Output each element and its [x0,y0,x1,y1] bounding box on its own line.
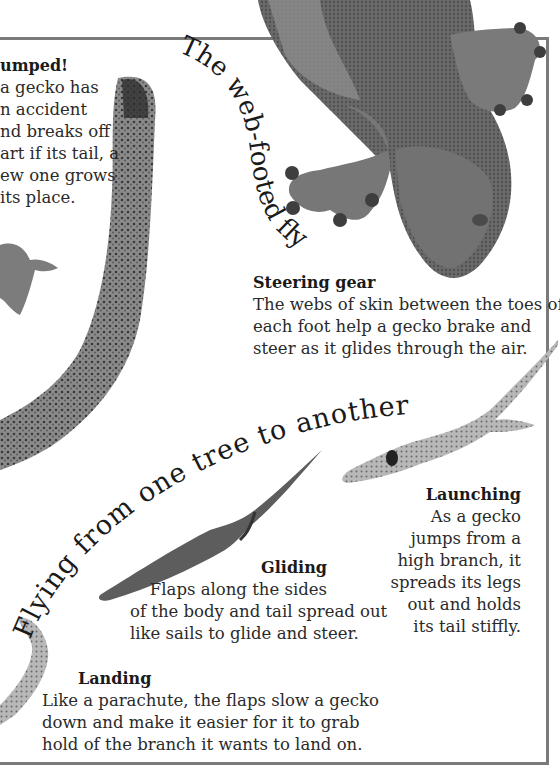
caption-line: art if its tail, a [0,143,150,165]
caption-gliding: Gliding Flaps along the sides of the bod… [130,557,327,645]
caption-heading: Launching [380,484,521,506]
caption-line: jumps from a [380,528,521,550]
caption-launching: Launching As a gecko jumps from a high b… [380,484,521,638]
caption-steering-gear: Steering gear The webs of skin between t… [253,272,543,360]
caption-line: each foot help a gecko brake and [253,316,543,338]
caption-line: ew one grows [0,165,150,187]
caption-heading: umped! [0,55,150,77]
caption-line: out and holds [380,594,521,616]
caption-line: spreads its legs [380,572,521,594]
caption-line: n accident [0,99,150,121]
caption-line: like sails to glide and steer. [130,623,327,645]
caption-line: its tail stiffly. [380,616,521,638]
caption-line: steer as it glides through the air. [253,338,543,360]
caption-line: of the body and tail spread out [130,601,327,623]
caption-heading: Gliding [130,557,327,579]
caption-line: down and make it easier for it to grab [42,712,342,734]
caption-line: high branch, it [380,550,521,572]
caption-heading: Steering gear [253,272,543,294]
caption-line: hold of the branch it wants to land on. [42,734,342,756]
caption-landing: Landing Like a parachute, the flaps slow… [42,668,342,756]
caption-line: The webs of skin between the toes of [253,294,543,316]
caption-line: its place. [0,187,150,209]
caption-line: As a gecko [380,506,521,528]
caption-dumped: umped! a gecko has n accident nd breaks … [0,55,150,209]
caption-line: Flaps along the sides [130,579,327,601]
caption-line: nd breaks off [0,121,150,143]
caption-line: Like a parachute, the flaps slow a gecko [42,690,342,712]
caption-line: a gecko has [0,77,150,99]
caption-heading: Landing [42,668,342,690]
